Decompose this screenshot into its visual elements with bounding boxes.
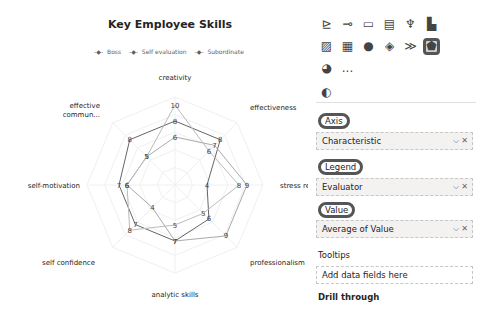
shape-map-icon[interactable]: ▨ (318, 38, 335, 55)
data-label: 7 (212, 142, 216, 150)
data-label: 5 (173, 222, 177, 230)
tooltips-well-label: Tooltips (318, 250, 350, 260)
legend-field-value: Evaluator (322, 182, 363, 192)
line-cluster-icon[interactable]: ⊵ (318, 16, 335, 33)
axis-label: self-motivation (28, 182, 80, 190)
axis-field[interactable]: Characteristic ⌵ ✕ (316, 132, 473, 150)
data-label: 6 (173, 134, 178, 142)
globe-icon[interactable]: ● (360, 38, 377, 55)
data-label: 8 (128, 136, 132, 144)
axis-label: self confidence (42, 259, 95, 267)
axis-label: effectiveness (250, 104, 297, 112)
more-icon[interactable]: ... (339, 60, 356, 77)
data-label: 8 (173, 118, 177, 126)
data-label: 7 (133, 221, 137, 229)
field-controls[interactable]: ⌵ ✕ (453, 136, 468, 146)
axis-label: effective (70, 102, 100, 110)
data-label: 5 (201, 210, 205, 218)
radar-chart-visual[interactable]: Key Employee Skills -◆- Boss -◆- Self ev… (0, 0, 340, 317)
field-controls[interactable]: ⌵ ✕ (453, 182, 468, 192)
pie-icon[interactable]: ◕ (318, 60, 335, 77)
data-label: 6 (207, 148, 212, 156)
smart-narrative-icon[interactable]: ▙ (423, 16, 440, 33)
data-label: 9 (245, 182, 249, 190)
data-label: 8 (218, 136, 222, 144)
axis-label: professionalism (250, 259, 305, 267)
data-label: 6 (207, 215, 212, 223)
axis-label: commun... (63, 111, 100, 119)
tooltips-drop-zone[interactable]: Add data fields here (316, 266, 473, 284)
chevron-flow-icon[interactable]: ≫ (402, 38, 419, 55)
axis-label: analytic skills (151, 291, 198, 299)
data-label: 8 (128, 227, 132, 235)
data-label: 4 (150, 204, 155, 212)
tooltips-placeholder: Add data fields here (322, 270, 408, 280)
data-label: 4 (205, 182, 210, 190)
visualizations-pane: ⊵ ⊸ ▭ ▤ ♆ ▙ ▨ ▦ ● ◈ ≫ ⬟ ◕ ... ◐ Axis Cha… (308, 0, 483, 317)
filter-icon[interactable]: ▦ (339, 38, 356, 55)
field-controls[interactable]: ⌵ ✕ (453, 224, 468, 234)
decomposition-tree-icon[interactable]: ⊸ (339, 16, 356, 33)
data-label: 10 (171, 102, 180, 110)
paginated-report-icon[interactable]: ▤ (381, 16, 398, 33)
qa-icon[interactable]: ▭ (360, 16, 377, 33)
axis-well-label: Axis (318, 113, 350, 129)
data-label: 7 (117, 182, 121, 190)
radar-plot: creativityeffectivenessstress resistanc.… (0, 0, 340, 317)
value-field-value: Average of Value (322, 224, 394, 234)
data-label: 7 (173, 238, 177, 246)
data-label: 9 (224, 232, 228, 240)
diamond-icon[interactable]: ◈ (381, 38, 398, 55)
axis-label: creativity (159, 74, 192, 82)
visual-gallery: ⊵ ⊸ ▭ ▤ ♆ ▙ ▨ ▦ ● ◈ ≫ ⬟ ◕ ... ◐ (318, 15, 440, 105)
analytics-icon[interactable]: ◐ (318, 84, 335, 101)
value-well-label: Value (318, 202, 355, 218)
drill-through-heading: Drill through (318, 292, 379, 302)
legend-field[interactable]: Evaluator ⌵ ✕ (316, 178, 473, 196)
data-label: 8 (237, 182, 241, 190)
legend-well-label: Legend (318, 159, 363, 175)
data-label: 6 (125, 182, 130, 190)
trophy-icon[interactable]: ♆ (402, 16, 419, 33)
data-label: 5 (144, 153, 148, 161)
divider (316, 102, 476, 103)
value-field[interactable]: Average of Value ⌵ ✕ (316, 220, 473, 238)
radar-chart-icon[interactable]: ⬟ (423, 38, 440, 55)
axis-field-value: Characteristic (322, 136, 381, 146)
